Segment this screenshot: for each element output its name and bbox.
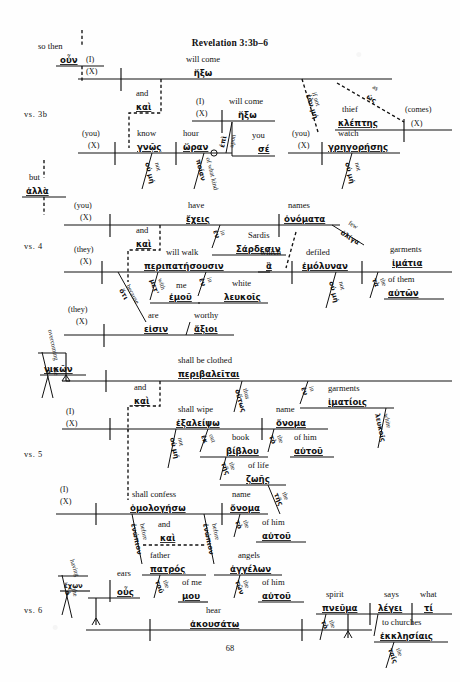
c10-subject-en: (I) [60,485,68,494]
conj1-en: and [136,88,149,98]
c4-neg-greek: οὐ μή [343,162,356,185]
c10-ofme-gr: μου [182,591,200,601]
c11-spirit-gr: πνεῦμα [322,603,358,613]
connector-oun-greek: οὖν [60,54,78,65]
clause-shall-be-clothed: overcoming νικῶν the ὁ shall be clothed … [38,329,452,448]
c6-ofthem-en: of them [388,274,415,284]
conj4-en: and [158,519,171,529]
c6-in-greek: ἐν [197,277,208,288]
c1-comes-en: (comes) [405,105,432,114]
verse-label-4: vs. 4 [24,242,43,251]
c1-subject-en: (I) [86,55,94,64]
c11-ears-en: ears [117,568,131,578]
sentence-flow-diagram: Revelation 3:3b–6 vs. 3b vs. 4 vs. 5 vs.… [0,0,460,682]
c5-sardis-en: Sardis [248,230,270,240]
clause-will-come-2: (I) (X) will come ἥξω [192,96,275,133]
object-hour: hour ὥραν ποίαν of what kind [176,128,220,191]
c5-few-gloss: few [347,219,359,230]
c8-overcoming-gloss: overcoming [47,329,61,362]
c6-not-gloss: not [338,281,347,291]
verse-label-5: vs. 5 [24,450,43,459]
c11-spirit-en: spirit [326,589,344,599]
c1-mod-as-greek: ὡς [365,93,378,105]
c11-says-gr: λέγει [378,603,402,613]
c3-subject-gr: (X) [196,109,208,118]
c10-ofhim2-gr: αὐτοῦ [262,591,291,601]
c2-neg-greek: οὐ μή [143,162,156,185]
c1-thief-gr: κλέπτης [338,118,378,128]
c6-me-en: me [176,280,187,290]
c8-in-greek: ἐν [299,386,310,397]
c10-name-en: name [232,489,251,499]
c9-oflife-gr: ζωῆς [246,474,270,484]
c1-verb-en: will come [186,54,220,64]
c6-defiled-en: defiled [306,247,331,257]
c7-verb-gr: εἰσιν [144,324,168,334]
c9-out-greek: ἐκ [199,434,210,445]
connector-oun-gloss: so then [38,41,63,51]
conj3-gr: καὶ [134,396,149,406]
c10-father-gr: πατρός [150,564,185,574]
c9-name-gr: ὄνομα [276,418,306,428]
c1-verb-gr: ἥξω [194,68,213,78]
c7-subject-en: (they) [68,305,88,314]
c1-thief-en: thief [342,104,358,114]
conj1-gr: καὶ [136,102,151,112]
clause-will-walk: (they) (X) will walk περιπατήσουσιν beca… [64,245,270,322]
c9-book-en: book [232,432,250,442]
c5-subject-gr: (X) [80,213,92,222]
c6-garments-en: garments [390,244,422,254]
c6-ofthem-gr: αὐτῶν [388,288,419,298]
connector-alla: but ἀλλὰ [22,160,66,215]
c7-worthy-en: worthy [194,310,219,320]
c9-verb-en: shall wipe [178,404,213,414]
c9-subject-gr: (X) [66,419,78,428]
conj2-en: and [136,225,149,235]
page-title: Revelation 3:3b–6 [192,38,269,48]
c10-angels-gr: ἀγγέλων [230,564,271,574]
c2-subject-gr: (X) [88,141,100,150]
c11-churches-gr: ἐκκλησίαις [380,631,433,641]
c4-neg-gloss: not [354,162,363,172]
c10-angels-en: angels [238,550,261,560]
c3-subject-en: (I) [196,97,204,106]
c1-mod-as-gloss: as [371,83,380,92]
c8-garments-gr: ἱματίοις [328,397,367,407]
c5-verb-gr: ἔχεις [186,214,210,224]
c2-poian-greek: ποίαν [194,159,207,183]
c6-subject-en: (they) [74,245,94,254]
c2-verb-gr: γνῷς [137,142,161,152]
c11-what-en: what [420,589,437,599]
c6-not-greek: οὐ μή [327,281,340,304]
c9-verb-gr: ἐξαλείψω [176,418,220,428]
c6-defiled-gr: ἐμόλυναν [302,261,348,271]
c6-which-en: which [260,247,282,257]
c6-white-gr: λευκοῖς [224,292,260,302]
c6-white-en: white [232,278,251,288]
c8-garments-en: garments [328,383,360,393]
c1-comes-gr: (X) [411,119,423,128]
connector-alla-greek: ἀλλὰ [26,186,49,196]
c4-verb-en: watch [338,128,359,138]
verse-label-3b: vs. 3b [24,110,48,119]
c8-verb-en: shall be clothed [178,355,233,365]
c2-se-en: you [252,130,266,140]
c9-oflife-en: of life [248,460,269,470]
c5-verb-en: have [188,200,204,210]
c10-father-en: father [150,550,170,560]
connector-alla-gloss: but [29,172,41,182]
c11-what-gr: τί [424,603,433,613]
c10-ofhim2-en: of him [262,577,285,587]
conj3-en: and [134,382,147,392]
c10-ofhim-gr: αὐτοῦ [262,531,291,541]
c10-name-gr: ὄνομα [230,503,260,513]
c6-which-gr: ἃ [266,261,272,271]
c6-verb-gr: περιπατήσουσιν [144,261,224,271]
c5-subject-en: (you) [74,201,92,210]
c11-verb-gr: ἀκουσάτω [190,619,240,629]
c11-verb-en: hear [206,605,221,615]
c7-worthy-gr: ἄξιοι [194,324,218,334]
c4-subject-gr: (X) [298,141,310,150]
c4-subject-en: (you) [292,129,310,138]
c2-poian-gloss: of what kind [205,157,220,192]
